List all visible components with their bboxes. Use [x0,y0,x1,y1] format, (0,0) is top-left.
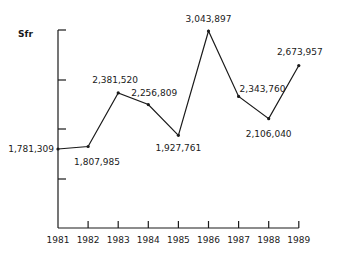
data-value-label: 3,043,897 [186,14,232,24]
data-labels: 1,781,3091,807,9852,381,5202,256,8091,92… [8,14,323,167]
data-value-label: 2,343,760 [240,84,286,94]
x-axis-tick-labels: 198119821983198419851986198719881989 [47,235,311,245]
data-value-label: 1,807,985 [74,157,120,167]
data-value-label: 2,106,040 [246,129,292,139]
x-tick-label: 1984 [137,235,160,245]
data-value-label: 2,381,520 [92,75,138,85]
x-tick-label: 1985 [167,235,190,245]
x-tick-label: 1989 [287,235,310,245]
data-point [117,91,120,94]
x-tick-label: 1983 [107,235,130,245]
x-tick-label: 1988 [257,235,280,245]
data-point [297,64,300,67]
y-axis-unit-label: Sfr [18,29,33,39]
data-value-label: 2,256,809 [131,88,177,98]
data-point [237,95,240,98]
chart-canvas: Sfr 1,781,3091,807,9852,381,5202,256,809… [0,0,338,259]
x-tick-label: 1981 [47,235,70,245]
data-value-label: 1,781,309 [8,144,54,154]
data-point [177,134,180,137]
x-tick-label: 1986 [197,235,220,245]
data-value-label: 2,673,957 [277,47,323,57]
data-point [207,29,210,32]
data-point [87,145,90,148]
x-tick-label: 1982 [77,235,100,245]
line-chart: Sfr 1,781,3091,807,9852,381,5202,256,809… [0,0,338,259]
data-point [147,103,150,106]
data-point [56,147,59,150]
data-value-label: 1,927,761 [155,143,201,153]
x-tick-label: 1987 [227,235,250,245]
data-point [267,117,270,120]
